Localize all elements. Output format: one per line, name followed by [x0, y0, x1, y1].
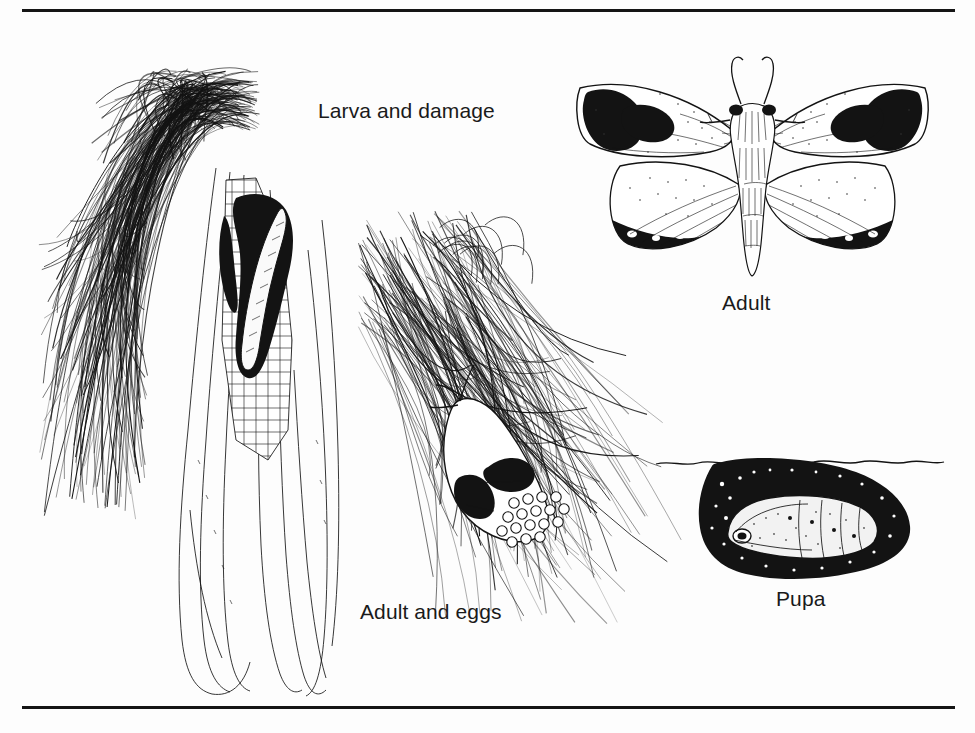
corn-ear-with-larva-damage-illustration — [30, 40, 380, 700]
horizontal-rule-top — [22, 9, 955, 12]
pupa-in-soil-cell-illustration — [650, 440, 950, 600]
adult-moth-illustration — [560, 48, 945, 293]
caption-adult-and-eggs: Adult and eggs — [360, 600, 502, 624]
caption-larva-and-damage: Larva and damage — [318, 99, 495, 123]
caption-adult: Adult — [722, 291, 770, 315]
horizontal-rule-bottom — [22, 706, 955, 709]
moth-antennae — [732, 57, 774, 104]
figure-page: Larva and damage Adult Adult and eggs Pu… — [0, 0, 975, 733]
forewing-left — [577, 84, 733, 156]
hindwing-right — [765, 162, 903, 258]
husk-stipple — [198, 440, 326, 604]
forewing-right — [772, 84, 928, 156]
hindwing-left — [602, 162, 740, 258]
caption-pupa: Pupa — [776, 587, 825, 611]
pupa-body — [728, 496, 878, 559]
